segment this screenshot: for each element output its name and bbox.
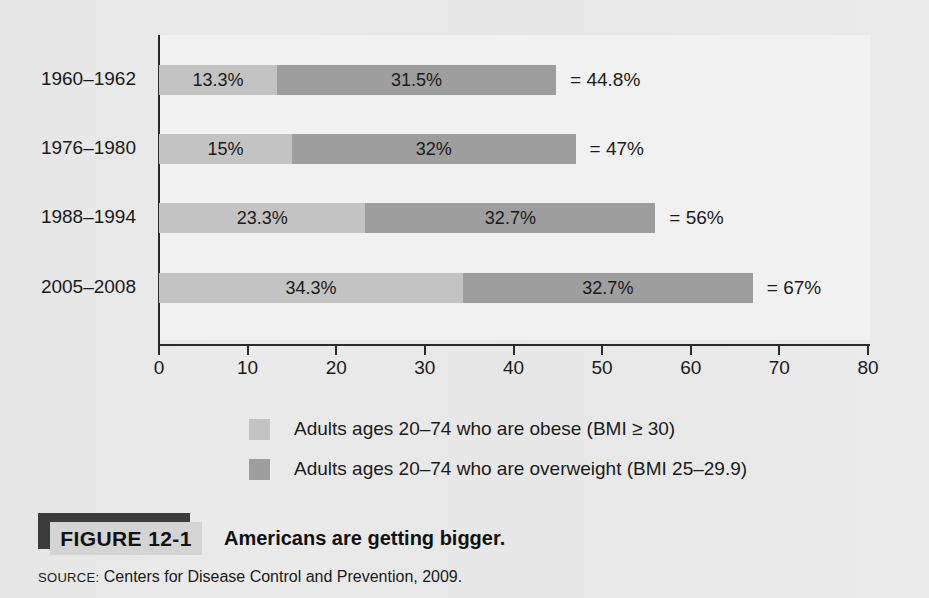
x-axis-tick-label: 70 xyxy=(769,357,790,379)
bar-segment-overweight: 32.7% xyxy=(365,203,655,233)
bar-total-label: = 67% xyxy=(767,273,821,303)
bar-segment-obese: 13.3% xyxy=(159,65,277,95)
source-keyword: SOURCE: xyxy=(38,570,99,585)
category-label-wrap: 1976–1980 xyxy=(0,137,148,161)
x-axis-tick-label: 80 xyxy=(857,357,878,379)
x-axis-tick-label: 40 xyxy=(503,357,524,379)
bar-segment-overweight: 32.7% xyxy=(463,273,753,303)
category-label: 1976–1980 xyxy=(41,137,136,159)
category-label-wrap: 1988–1994 xyxy=(0,206,148,230)
bar-segment-overweight: 32% xyxy=(292,134,576,164)
legend-item: Adults ages 20–74 who are overweight (BM… xyxy=(249,449,747,489)
x-axis-tick xyxy=(601,346,603,355)
chart-legend: Adults ages 20–74 who are obese (BMI ≥ 3… xyxy=(249,409,747,489)
obese-swatch xyxy=(249,419,270,440)
x-axis-tick-label: 60 xyxy=(680,357,701,379)
bar-total-label: = 56% xyxy=(669,203,723,233)
x-axis-tick xyxy=(158,346,160,355)
legend-item: Adults ages 20–74 who are obese (BMI ≥ 3… xyxy=(249,409,747,449)
bar-segment-obese: 34.3% xyxy=(159,273,463,303)
x-axis-tick xyxy=(247,346,249,355)
source-text: Centers for Disease Control and Preventi… xyxy=(99,568,462,585)
bar-total-label: = 47% xyxy=(590,134,644,164)
category-label: 1988–1994 xyxy=(41,206,136,228)
source-line: SOURCE: Centers for Disease Control and … xyxy=(38,568,462,586)
x-axis-tick-label: 50 xyxy=(592,357,613,379)
bar-segment-overweight: 31.5% xyxy=(277,65,556,95)
x-axis-tick xyxy=(867,346,869,355)
bar-segment-obese: 23.3% xyxy=(159,203,365,233)
x-axis-tick xyxy=(424,346,426,355)
x-axis-tick-label: 20 xyxy=(326,357,347,379)
bar-total-label: = 44.8% xyxy=(570,65,640,95)
category-label: 1960–1962 xyxy=(41,68,136,90)
category-label-wrap: 1960–1962 xyxy=(0,68,148,92)
x-axis-tick xyxy=(335,346,337,355)
overweight-swatch xyxy=(249,459,270,480)
x-axis-tick xyxy=(513,346,515,355)
x-axis-tick-label: 10 xyxy=(237,357,258,379)
figure-tag-box: FIGURE 12-1 xyxy=(50,522,202,555)
category-label: 2005–2008 xyxy=(41,276,136,298)
x-axis-tick xyxy=(778,346,780,355)
legend-item-label: Adults ages 20–74 who are overweight (BM… xyxy=(294,458,747,480)
x-axis-tick-label: 30 xyxy=(414,357,435,379)
figure-container: 01020304050607080 1960–196213.3%31.5%= 4… xyxy=(0,0,929,598)
figure-title: Americans are getting bigger. xyxy=(224,522,505,555)
legend-item-label: Adults ages 20–74 who are obese (BMI ≥ 3… xyxy=(294,418,675,440)
category-label-wrap: 2005–2008 xyxy=(0,276,148,300)
x-axis-tick-label: 0 xyxy=(154,357,165,379)
figure-tag-label: FIGURE 12-1 xyxy=(60,527,192,551)
bar-segment-obese: 15% xyxy=(159,134,292,164)
x-axis-tick xyxy=(690,346,692,355)
